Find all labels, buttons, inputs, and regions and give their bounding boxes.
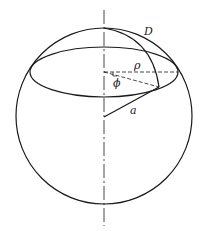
label-rho: ρ [134,60,140,71]
label-phi: ϕ [113,78,121,89]
label-a: a [130,105,137,116]
label-d: D [144,26,153,37]
sphere-diagram [0,0,201,231]
